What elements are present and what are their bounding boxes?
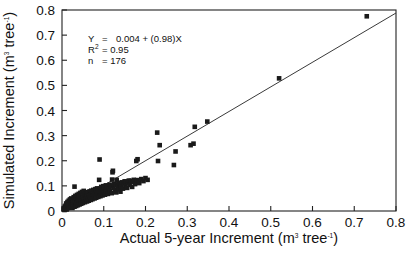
x-tick-label: 0.1: [94, 215, 113, 230]
annotation-r-squared: R2= 0.95: [88, 43, 129, 55]
data-point: [110, 177, 115, 182]
y-tick-label: 0: [47, 204, 55, 219]
data-point: [97, 178, 102, 183]
x-axis-title: Actual 5-year Increment (m3 tree-1): [120, 230, 338, 246]
data-point: [192, 125, 197, 130]
data-point: [155, 130, 160, 135]
y-tick-label: 0.6: [36, 53, 55, 68]
data-point: [111, 169, 116, 174]
data-point: [205, 119, 210, 124]
data-point: [277, 76, 282, 81]
y-tick-label: 0.2: [36, 154, 55, 169]
annotation-sample-size: n= 176: [88, 55, 126, 66]
data-point: [191, 141, 196, 146]
chart-canvas: 00.10.20.30.40.50.60.70.800.10.20.30.40.…: [0, 0, 413, 258]
y-tick-label: 0.7: [36, 28, 55, 43]
y-tick-label: 0.3: [36, 129, 55, 144]
data-point: [364, 14, 369, 19]
data-point: [135, 157, 140, 162]
x-tick-label: 0.7: [345, 215, 364, 230]
data-point: [173, 149, 178, 154]
x-tick-label: 0: [58, 215, 66, 230]
x-tick-label: 0.6: [303, 215, 322, 230]
data-point: [137, 181, 142, 186]
scatter-plot-figure: 00.10.20.30.40.50.60.70.800.10.20.30.40.…: [0, 0, 413, 258]
y-tick-label: 0.4: [36, 104, 55, 119]
annotation-equation: Y=0.004 + (0.98)X: [88, 33, 182, 44]
x-tick-label: 0.3: [178, 215, 197, 230]
x-tick-label: 0.4: [220, 215, 239, 230]
y-axis-title: Simulated Increment (m3 tree-1): [1, 12, 17, 209]
data-point: [133, 182, 138, 187]
y-tick-label: 0.8: [36, 3, 55, 18]
y-tick-label: 0.5: [36, 78, 55, 93]
data-point: [97, 157, 102, 162]
data-point: [172, 163, 177, 168]
y-tick-label: 0.1: [36, 179, 55, 194]
data-point: [157, 143, 162, 148]
x-tick-label: 0.5: [261, 215, 280, 230]
data-point: [72, 184, 77, 189]
x-tick-label: 0.8: [387, 215, 406, 230]
data-point: [156, 159, 161, 164]
x-tick-label: 0.2: [136, 215, 155, 230]
data-point: [145, 178, 150, 183]
